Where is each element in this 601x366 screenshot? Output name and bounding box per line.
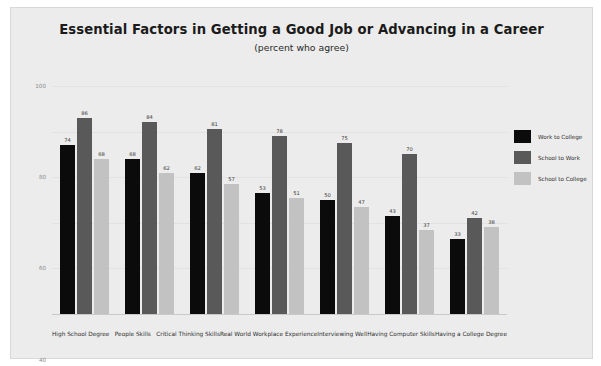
bar-column[interactable]: 51 xyxy=(289,86,304,314)
bar-group: 507547 xyxy=(312,86,377,314)
bar-column[interactable]: 81 xyxy=(207,86,222,314)
bar-column[interactable]: 75 xyxy=(337,86,352,314)
chart-subtitle: (percent who agree) xyxy=(11,42,592,54)
bar[interactable] xyxy=(484,227,499,314)
bar[interactable] xyxy=(207,129,222,314)
bar[interactable] xyxy=(125,159,140,314)
bar[interactable] xyxy=(190,173,205,314)
bar-value-label: 50 xyxy=(324,192,331,199)
bar-value-label: 75 xyxy=(341,135,348,142)
chart-title: Essential Factors in Getting a Good Job … xyxy=(11,22,592,38)
bar-column[interactable]: 38 xyxy=(484,86,499,314)
bar-column[interactable]: 37 xyxy=(419,86,434,314)
bar-value-label: 37 xyxy=(423,222,430,229)
bar-group: 688462 xyxy=(117,86,182,314)
bar[interactable] xyxy=(467,218,482,314)
bar[interactable] xyxy=(77,118,92,314)
bar-column[interactable]: 86 xyxy=(77,86,92,314)
y-axis-tick-label: 40 xyxy=(39,357,46,363)
bar-value-label: 53 xyxy=(259,185,266,192)
legend-item[interactable]: School to Work xyxy=(514,151,592,164)
bar-column[interactable]: 70 xyxy=(402,86,417,314)
y-axis-tick-label: 60 xyxy=(39,265,46,271)
x-axis-line xyxy=(52,314,507,315)
chart-legend: Work to CollegeSchool to WorkSchool to C… xyxy=(514,130,592,193)
bar-column[interactable]: 84 xyxy=(142,86,157,314)
bar-column[interactable]: 57 xyxy=(224,86,239,314)
bar[interactable] xyxy=(94,159,109,314)
bar[interactable] xyxy=(142,122,157,314)
bar-column[interactable]: 42 xyxy=(467,86,482,314)
bar-column[interactable]: 43 xyxy=(385,86,400,314)
bar-group: 437037 xyxy=(377,86,442,314)
bar[interactable] xyxy=(450,239,465,314)
legend-swatch xyxy=(514,151,531,164)
legend-label: School to College xyxy=(538,176,587,182)
bar-value-label: 38 xyxy=(488,219,495,226)
bar-value-label: 33 xyxy=(454,231,461,238)
bar[interactable] xyxy=(337,143,352,314)
category-label: Real World Workplace Experience xyxy=(220,330,317,338)
legend-item[interactable]: Work to College xyxy=(514,130,592,143)
bar[interactable] xyxy=(402,154,417,314)
bar-column[interactable]: 33 xyxy=(450,86,465,314)
bar-value-label: 70 xyxy=(406,146,413,153)
bar[interactable] xyxy=(159,173,174,314)
bar[interactable] xyxy=(224,184,239,314)
bar-value-label: 62 xyxy=(194,165,201,172)
bar[interactable] xyxy=(255,193,270,314)
legend-label: School to Work xyxy=(538,155,580,161)
bar-value-label: 68 xyxy=(129,151,136,158)
bar-value-label: 81 xyxy=(211,121,218,128)
bar-column[interactable]: 62 xyxy=(190,86,205,314)
y-axis-tick-label: 100 xyxy=(35,83,46,89)
bar[interactable] xyxy=(60,145,75,314)
bar-value-label: 68 xyxy=(98,151,105,158)
bar-value-label: 43 xyxy=(389,208,396,215)
bar[interactable] xyxy=(289,198,304,314)
category-label: High School Degree xyxy=(52,330,109,338)
bar-value-label: 84 xyxy=(146,114,153,121)
category-label: Having Computer Skills xyxy=(367,330,435,338)
category-label: Having a College Degree xyxy=(435,330,507,338)
bar-group: 748668 xyxy=(52,86,117,314)
legend-label: Work to College xyxy=(538,134,582,140)
category-axis-labels: High School DegreePeople SkillsCritical … xyxy=(52,330,507,338)
bar-value-label: 47 xyxy=(358,199,365,206)
chart-card: Essential Factors in Getting a Good Job … xyxy=(10,7,593,359)
bar-column[interactable]: 78 xyxy=(272,86,287,314)
bar-value-label: 62 xyxy=(163,165,170,172)
bar-column[interactable]: 68 xyxy=(94,86,109,314)
bar-value-label: 78 xyxy=(276,128,283,135)
bar-group: 628157 xyxy=(182,86,247,314)
bar-value-label: 57 xyxy=(228,176,235,183)
bar-column[interactable]: 68 xyxy=(125,86,140,314)
bar-group: 537851 xyxy=(247,86,312,314)
bar[interactable] xyxy=(385,216,400,314)
bar[interactable] xyxy=(272,136,287,314)
bar[interactable] xyxy=(320,200,335,314)
bar-column[interactable]: 47 xyxy=(354,86,369,314)
bar-column[interactable]: 74 xyxy=(60,86,75,314)
bar-value-label: 42 xyxy=(471,210,478,217)
bar-value-label: 51 xyxy=(293,190,300,197)
bar[interactable] xyxy=(354,207,369,314)
bar[interactable] xyxy=(419,230,434,314)
legend-swatch xyxy=(514,130,531,143)
legend-item[interactable]: School to College xyxy=(514,172,592,185)
category-label: Critical Thinking Skills xyxy=(156,330,220,338)
category-label: People Skills xyxy=(109,330,156,338)
bar-column[interactable]: 50 xyxy=(320,86,335,314)
title-block: Essential Factors in Getting a Good Job … xyxy=(11,22,592,54)
bar-column[interactable]: 62 xyxy=(159,86,174,314)
y-axis-tick-label: 80 xyxy=(39,174,46,180)
category-label: Interviewing Well xyxy=(317,330,367,338)
bar-groups: 7486686884626281575378515075474370373342… xyxy=(52,86,507,314)
bar-column[interactable]: 53 xyxy=(255,86,270,314)
bar-value-label: 86 xyxy=(81,110,88,117)
bar-value-label: 74 xyxy=(64,137,71,144)
bar-group: 334238 xyxy=(442,86,507,314)
legend-swatch xyxy=(514,172,531,185)
